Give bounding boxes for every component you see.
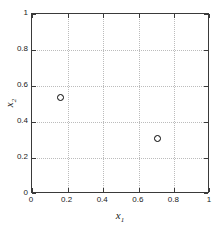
x-tick-mark bbox=[32, 188, 33, 192]
y-tick-mark bbox=[204, 122, 208, 123]
y-tick-mark bbox=[32, 158, 36, 159]
y-tick-mark bbox=[204, 86, 208, 87]
x-tick-label: 0.2 bbox=[61, 195, 72, 205]
y-tick-label: 0.6 bbox=[17, 80, 28, 90]
x-tick-label: 0 bbox=[29, 195, 33, 205]
x-tick-mark bbox=[139, 14, 140, 18]
gridline-vertical bbox=[68, 14, 69, 192]
x-tick-mark bbox=[174, 14, 175, 18]
data-point-marker bbox=[57, 94, 64, 101]
y-tick-label: 0.4 bbox=[17, 116, 28, 126]
x-tick-mark bbox=[139, 188, 140, 192]
x-tick-label: 0.4 bbox=[97, 195, 108, 205]
y-tick-label: 0.2 bbox=[17, 152, 28, 162]
plot-area bbox=[31, 13, 209, 193]
x-tick-label: 1 bbox=[207, 195, 211, 205]
x-tick-label: 0.8 bbox=[168, 195, 179, 205]
x-tick-mark bbox=[103, 188, 104, 192]
data-point-marker bbox=[154, 135, 161, 142]
x-tick-mark bbox=[103, 14, 104, 18]
gridline-horizontal bbox=[32, 86, 208, 87]
y-tick-mark bbox=[204, 193, 208, 194]
y-tick-mark bbox=[32, 86, 36, 87]
y-tick-mark bbox=[32, 193, 36, 194]
y-tick-mark bbox=[32, 14, 36, 15]
x-tick-mark bbox=[68, 188, 69, 192]
y-tick-label: 0.8 bbox=[17, 44, 28, 54]
y-tick-label: 1 bbox=[24, 8, 28, 18]
x-tick-mark bbox=[209, 14, 210, 18]
gridline-vertical bbox=[174, 14, 175, 192]
y-tick-mark bbox=[204, 158, 208, 159]
scatter-plot-figure: 00.20.40.60.81 00.20.40.60.81 x1 x2 bbox=[0, 0, 222, 231]
gridline-horizontal bbox=[32, 122, 208, 123]
x-tick-mark bbox=[68, 14, 69, 18]
y-tick-mark bbox=[204, 50, 208, 51]
x-tick-mark bbox=[174, 188, 175, 192]
y-tick-mark bbox=[32, 50, 36, 51]
x-tick-mark bbox=[209, 188, 210, 192]
y-axis-label: x2 bbox=[3, 99, 18, 107]
gridline-vertical bbox=[139, 14, 140, 192]
x-tick-label: 0.6 bbox=[132, 195, 143, 205]
y-tick-mark bbox=[32, 122, 36, 123]
y-tick-mark bbox=[204, 14, 208, 15]
x-axis-label-subscript: 1 bbox=[121, 216, 125, 224]
x-axis-label: x1 bbox=[116, 209, 124, 224]
gridline-horizontal bbox=[32, 50, 208, 51]
gridline-vertical bbox=[103, 14, 104, 192]
y-axis-label-subscript: 2 bbox=[10, 99, 18, 103]
gridline-horizontal bbox=[32, 158, 208, 159]
y-axis-label-text: x bbox=[3, 102, 15, 107]
y-tick-label: 0 bbox=[24, 188, 28, 198]
